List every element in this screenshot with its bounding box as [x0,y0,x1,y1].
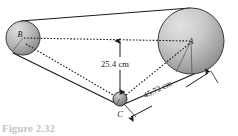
dimension-slant-extension-A [211,71,218,83]
pulley-C [113,92,127,106]
figure-container: A B C 25.4 cm 45.72 cm © Cengage Learnin… [0,0,238,136]
dimension-slant-arrow-upper [186,73,208,87]
pulley-B-label: B [18,30,23,39]
dimension-slant-group [124,71,218,117]
figure-caption-strip: Figure 2.32 [0,125,238,136]
belt-segment-top [21,8,190,21]
pulley-A-label: A [188,37,194,46]
dimension-label-height: 25.4 cm [101,59,129,69]
pulley-C-label: C [117,109,123,119]
figure-caption: Figure 2.32 [2,125,55,134]
dimension-slant-arrow-lower [131,106,152,117]
construction-line-BC [26,44,115,96]
